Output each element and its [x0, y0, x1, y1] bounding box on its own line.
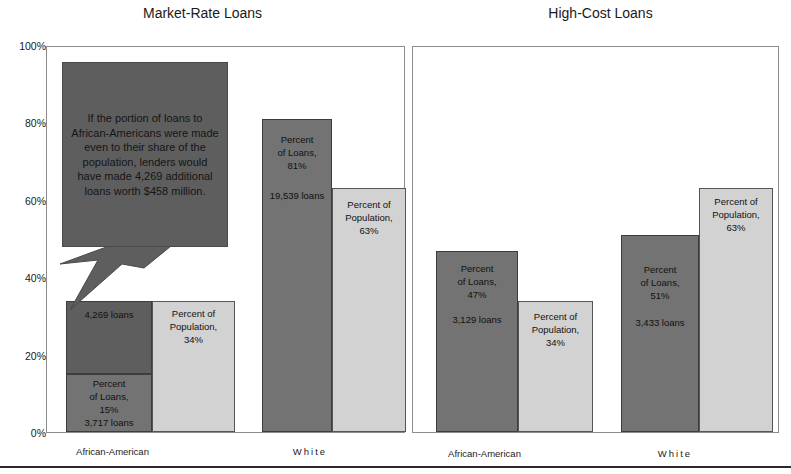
x-category-label-high-cost-white: White [620, 448, 730, 459]
bar-market-rate-white-loans[interactable]: Percent of Loans, 81% 19,539 loans [262, 119, 332, 432]
bar-count-market-rate-aa-shortfall: 4,269 loans [67, 308, 151, 321]
chart-title-high-cost: High-Cost Loans [410, 5, 791, 21]
bar-market-rate-white-population[interactable]: Percent of Population, 63% [332, 188, 406, 432]
plot-area-high-cost: Percent of Loans, 47% 3,129 loans Percen… [412, 46, 779, 433]
bar-count-high-cost-white-loans: 3,433 loans [622, 316, 698, 329]
bar-count-high-cost-aa-loans: 3,129 loans [437, 313, 517, 326]
x-category-label-high-cost-african-american: African-American [412, 448, 557, 459]
bar-label-high-cost-aa-loans: Percent of Loans, 47% [437, 262, 517, 301]
bar-high-cost-african-american-loans[interactable]: Percent of Loans, 47% 3,129 loans [436, 251, 518, 432]
bar-market-rate-african-american-population[interactable]: Percent of Population, 34% [152, 301, 235, 432]
y-tick-mark [40, 123, 45, 124]
bar-high-cost-white-population[interactable]: Percent of Population, 63% [699, 188, 773, 432]
figure-root: Market-Rate Loans High-Cost Loans 0%20%4… [0, 0, 791, 474]
y-tick-mark [40, 433, 45, 434]
bar-label-market-rate-white-population: Percent of Population, 63% [333, 198, 405, 237]
x-category-label-market-rate-white: White [255, 446, 365, 457]
bar-count-market-rate-aa-loans: 3,717 loans [67, 416, 151, 429]
y-axis: 0%20%40%60%80%100% [0, 0, 46, 474]
bar-label-market-rate-aa-population: Percent of Population, 34% [153, 307, 234, 346]
footer-divider [0, 466, 791, 468]
bar-count-market-rate-white-loans: 19,539 loans [263, 189, 331, 202]
x-category-label-market-rate-african-american: African-American [40, 446, 185, 457]
bar-label-high-cost-white-loans: Percent of Loans, 51% [622, 263, 698, 302]
bar-label-high-cost-white-population: Percent of Population, 63% [700, 195, 772, 234]
bar-high-cost-white-loans[interactable]: Percent of Loans, 51% 3,433 loans [621, 235, 699, 432]
bar-market-rate-african-american-shortfall[interactable]: 4,269 loans [66, 301, 152, 374]
chart-title-market-rate: Market-Rate Loans [0, 5, 405, 21]
callout-box[interactable]: If the portion of loans to African-Ameri… [62, 62, 228, 247]
y-tick-mark [40, 278, 45, 279]
y-tick-mark [40, 201, 45, 202]
bar-label-high-cost-aa-population: Percent of Population, 34% [519, 310, 592, 349]
bar-market-rate-african-american-loans[interactable]: Percent of Loans, 15% 3,717 loans [66, 374, 152, 432]
bar-label-market-rate-aa-loans: Percent of Loans, 15% [67, 377, 151, 416]
callout-text: If the portion of loans to African-Ameri… [63, 107, 227, 202]
bar-label-market-rate-white-loans: Percent of Loans, 81% [263, 133, 331, 172]
y-tick-mark [40, 356, 45, 357]
y-tick-mark [40, 46, 45, 47]
bar-high-cost-african-american-population[interactable]: Percent of Population, 34% [518, 301, 593, 432]
